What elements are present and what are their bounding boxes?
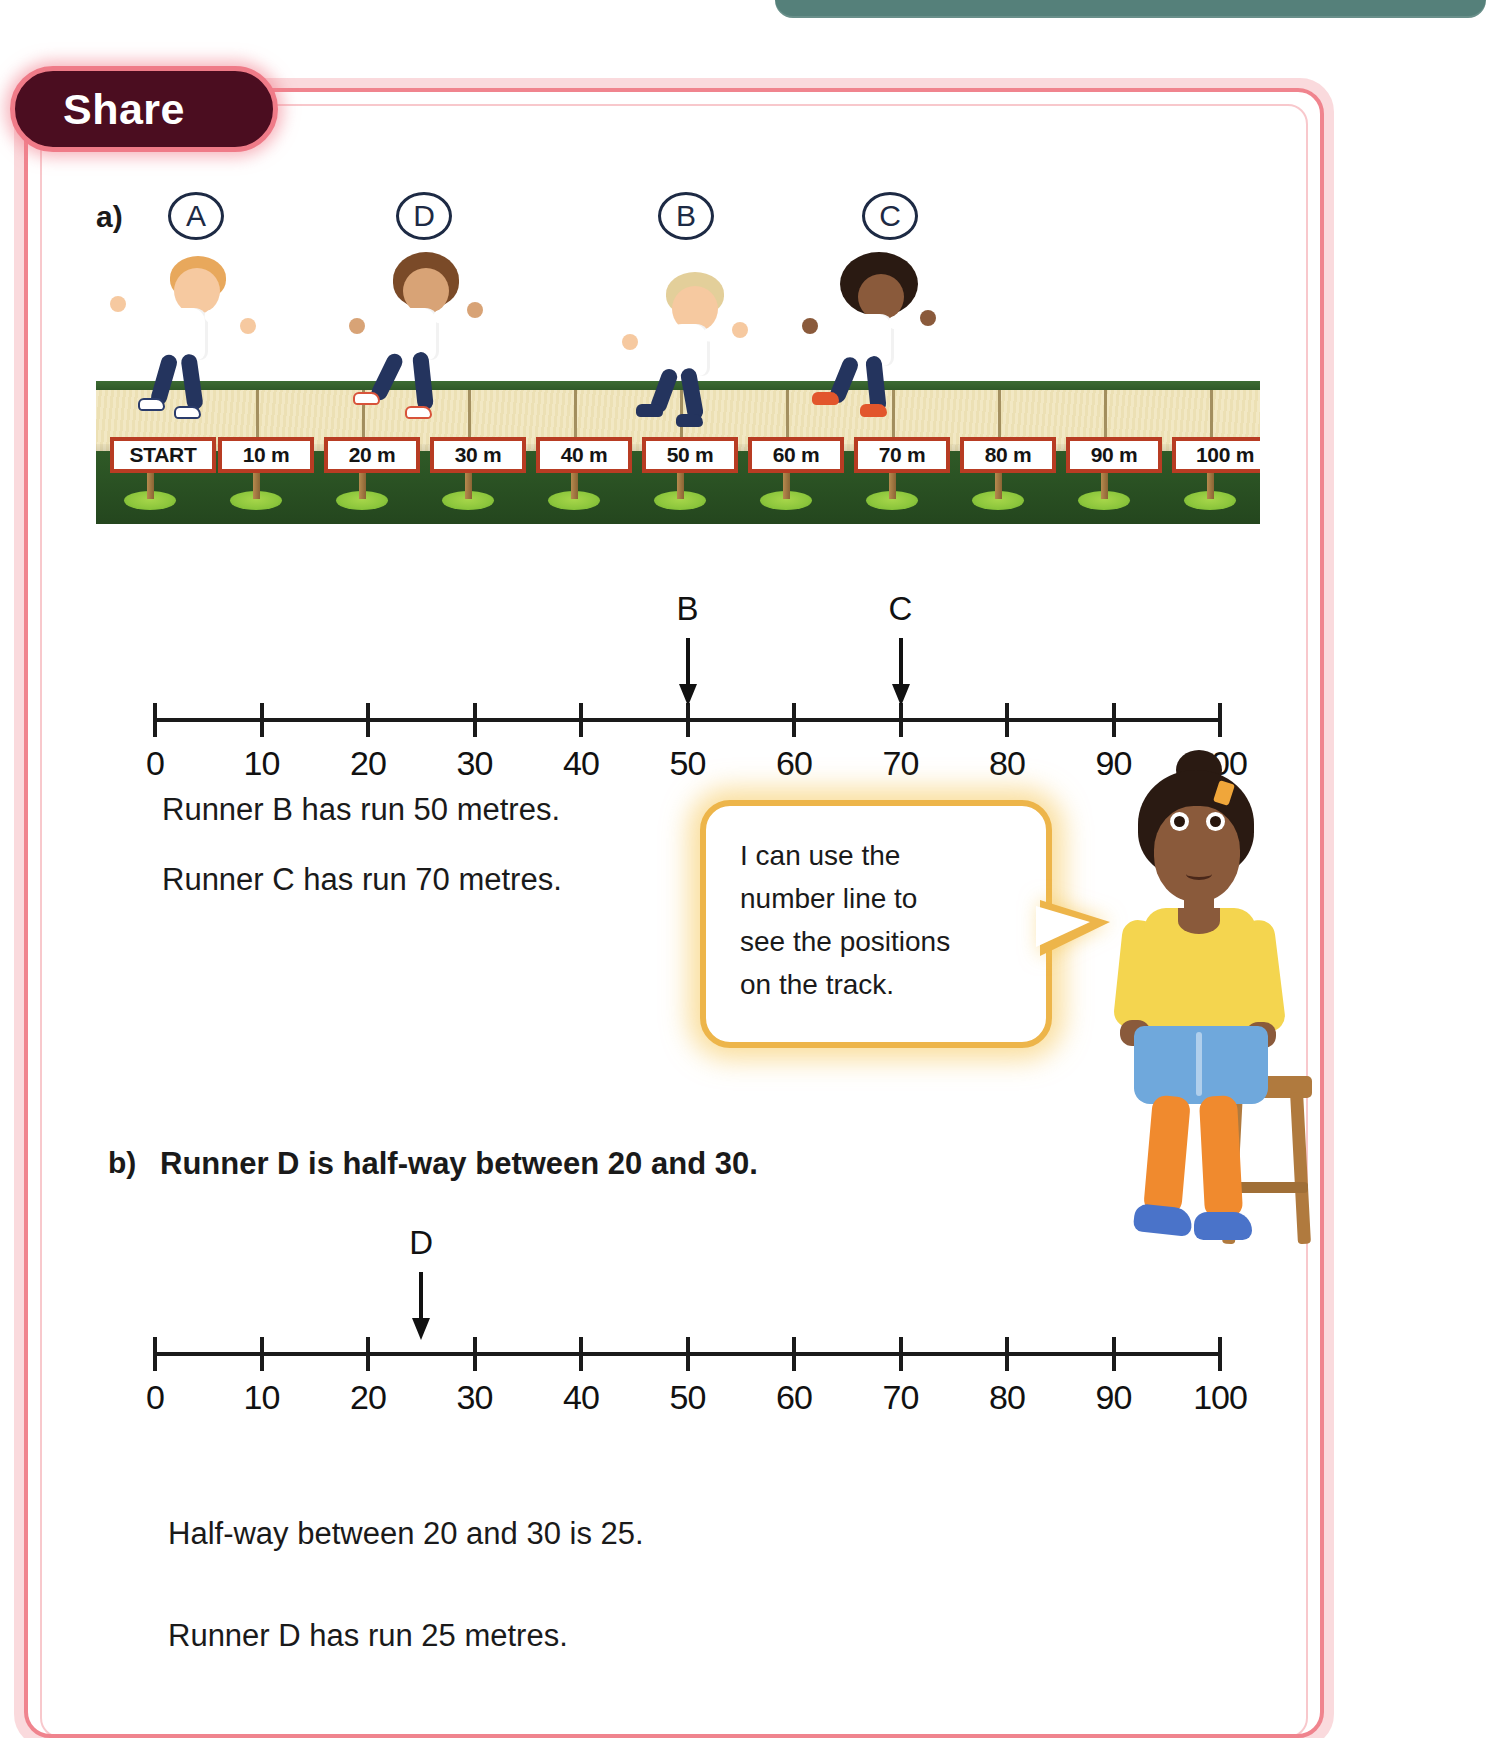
track-sign-post [465,473,472,499]
number-line-tick-label: 60 [754,1378,834,1417]
track-sign-post [253,473,260,499]
number-line-tick [686,1337,690,1371]
character-leg-right [1199,1095,1243,1219]
number-line-tick-label: 80 [967,744,1047,783]
number-line-tick [366,703,370,737]
answer-a-2: Runner C has run 70 metres. [162,862,562,898]
number-line-tick [473,703,477,737]
track-sign-post [1101,473,1108,499]
speech-line-4: on the track. [740,963,1028,1006]
number-line-tick-label: 20 [328,744,408,783]
number-line-tick-label: 10 [222,744,302,783]
character-eye-left [1170,812,1189,831]
number-line-tick [1218,703,1222,737]
number-line-tick [366,1337,370,1371]
number-line-tick [1005,1337,1009,1371]
number-line-tick-label: 100 [1180,1378,1260,1417]
number-line-tick [1218,1337,1222,1371]
runner-hand-right [240,318,256,334]
runner-shoe-right [676,414,703,427]
number-line-tick [153,1337,157,1371]
track-sign-40m: 40 m [536,437,632,473]
character-mouth [1186,868,1212,880]
arrow-head-icon [892,684,910,706]
runner-figure-b [620,272,760,422]
speech-line-3: see the positions [740,920,1028,963]
number-line-tick-label: 10 [222,1378,302,1417]
track-sign-30m: 30 m [430,437,526,473]
number-line-tick [1005,703,1009,737]
runner-shoe-right [860,404,887,417]
number-line-marker-label: B [648,590,728,628]
runner-hand-left [349,318,365,334]
track-sign-post [783,473,790,499]
character-neckline [1178,908,1220,934]
runner-shoe-left [812,392,839,405]
number-line-tick [899,703,903,737]
runner-label-c: C [862,192,918,240]
number-line-marker-label: D [381,1224,461,1262]
track-sign-80m: 80 m [960,437,1056,473]
character-illustration [1090,770,1320,1290]
track-sign-post [571,473,578,499]
arrow-shaft [686,638,690,690]
track-sign-100m: 100 m [1172,437,1260,473]
number-line-tick-label: 90 [1074,1378,1154,1417]
track-sign-post [1207,473,1214,499]
runner-leg-right [180,353,204,411]
part-a-marker: a) [96,200,123,234]
number-line-tick [686,703,690,737]
runner-figure-d [345,252,495,422]
runner-arm-left [117,296,172,325]
runner-figure-a [110,256,260,421]
runner-label-d: D [396,192,452,240]
runner-shoe-right [405,406,432,419]
runner-shoe-left [353,392,380,405]
number-line-tick [579,1337,583,1371]
arrow-shaft [899,638,903,690]
track-sign-20m: 20 m [324,437,420,473]
top-lesson-banner: Unit 2 Place value Lesson 5 [775,0,1486,18]
share-badge-label: Share [63,85,185,134]
answer-b-1: Half-way between 20 and 30 is 25. [168,1516,644,1552]
track-sign-60m: 60 m [748,437,844,473]
number-line-tick [473,1337,477,1371]
track-sign-post [677,473,684,499]
arrow-shaft [419,1272,423,1324]
answer-a-1: Runner B has run 50 metres. [162,792,560,828]
runner-shoe-left [636,404,663,417]
answer-b-2: Runner D has run 25 metres. [168,1618,568,1654]
number-line-tick [579,703,583,737]
number-line-tick [153,703,157,737]
speech-line-2: number line to [740,877,1028,920]
speech-bubble-text: I can use the number line to see the pos… [740,834,1028,1006]
track-sign-10m: 10 m [218,437,314,473]
number-line-tick [1112,1337,1116,1371]
runner-hand-right [467,302,483,318]
runner-hand-left [110,296,126,312]
speech-line-1: I can use the [740,834,1028,877]
part-b-statement: Runner D is half-way between 20 and 30. [160,1146,758,1182]
number-line-tick-label: 70 [861,1378,941,1417]
number-line-tick-label: 50 [648,744,728,783]
number-line-marker-label: C [861,590,941,628]
arrow-head-icon [679,684,697,706]
track-sign-50m: 50 m [642,437,738,473]
speech-bubble: I can use the number line to see the pos… [700,800,1052,1048]
track-sign-70m: 70 m [854,437,950,473]
number-line-tick [1112,703,1116,737]
character-shoe-left [1133,1203,1194,1237]
stool-leg [1290,1092,1311,1244]
number-line-tick-label: 70 [861,744,941,783]
character-eye-right [1206,812,1225,831]
number-line-tick-label: 40 [541,744,621,783]
number-line-tick-label: 20 [328,1378,408,1417]
number-line-tick-label: 0 [115,1378,195,1417]
number-line-tick-label: 60 [754,744,834,783]
runner-hand-left [622,334,638,350]
character-shoe-right [1194,1212,1252,1240]
number-line-tick-label: 80 [967,1378,1047,1417]
share-badge: Share [10,66,278,152]
number-line-tick [260,703,264,737]
arrow-head-icon [412,1318,430,1340]
